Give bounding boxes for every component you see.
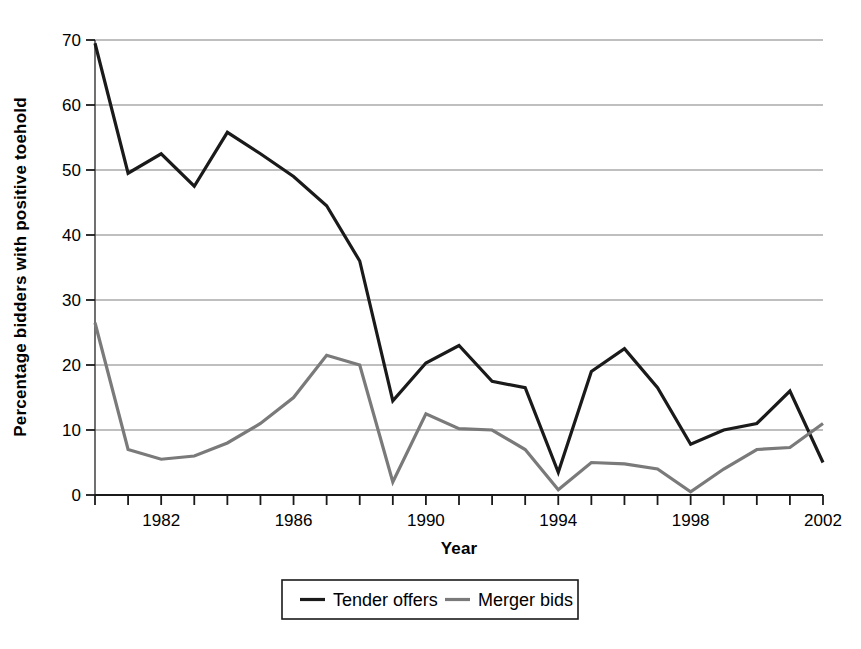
y-axis-tick-labels: 010203040506070 xyxy=(62,31,81,505)
x-tick-label: 1998 xyxy=(672,511,710,530)
y-tick-label: 50 xyxy=(62,161,81,180)
x-axis-title: Year xyxy=(441,539,478,558)
line-chart: 010203040506070 198219861990199419982002… xyxy=(0,0,861,649)
series-line-merger-bids xyxy=(95,323,823,492)
y-tick-label: 40 xyxy=(62,226,81,245)
x-tick-label: 1982 xyxy=(142,511,180,530)
chart-legend: Tender offersMerger bids xyxy=(282,580,578,619)
chart-figure: 010203040506070 198219861990199419982002… xyxy=(0,0,861,649)
x-tick-label: 1986 xyxy=(275,511,313,530)
y-tick-label: 60 xyxy=(62,96,81,115)
x-axis-tick-labels: 198219861990199419982002 xyxy=(142,511,842,530)
x-axis-title-text: Year xyxy=(441,539,478,558)
y-tick-label: 10 xyxy=(62,421,81,440)
y-tick-label: 30 xyxy=(62,291,81,310)
data-series-lines xyxy=(95,43,823,492)
x-axis-ticks xyxy=(95,495,823,505)
y-tick-label: 0 xyxy=(72,486,81,505)
gridlines xyxy=(95,40,823,495)
y-axis-title-text: Percentage bidders with positive toehold xyxy=(11,97,30,437)
y-axis-title: Percentage bidders with positive toehold xyxy=(11,97,30,437)
x-tick-label: 2002 xyxy=(804,511,842,530)
x-tick-label: 1990 xyxy=(407,511,445,530)
x-tick-label: 1994 xyxy=(539,511,577,530)
legend-label-0: Tender offers xyxy=(333,590,438,610)
y-tick-label: 20 xyxy=(62,356,81,375)
legend-label-1: Merger bids xyxy=(478,590,573,610)
y-tick-label: 70 xyxy=(62,31,81,50)
y-axis-ticks xyxy=(86,40,95,495)
series-line-tender-offers xyxy=(95,43,823,472)
